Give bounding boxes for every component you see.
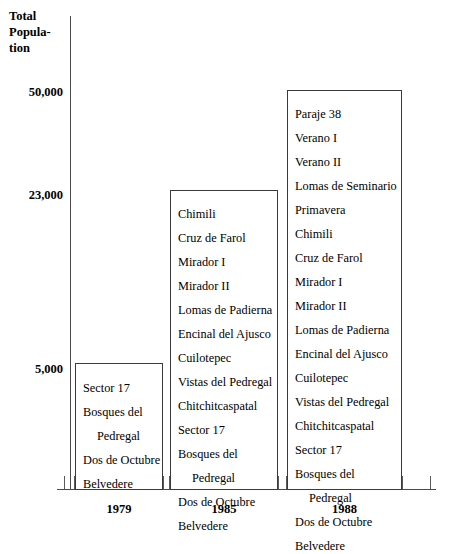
bar-1988-entry-list: Paraje 38Verano IVerano IILomas de Semin… (288, 102, 401, 554)
bar-1985: ChimiliCruz de FarolMirador IMirador IIL… (170, 190, 278, 490)
bar-1979-entry-list: Sector 17Bosques delPedregalDos de Octub… (76, 376, 162, 496)
bar-entry: Chitchitcaspatal (178, 394, 270, 418)
bar-1979: Sector 17Bosques delPedregalDos de Octub… (75, 363, 163, 490)
bar-entry: Bosques del (178, 442, 270, 466)
y-axis-line (70, 16, 71, 490)
bar-entry: Mirador I (178, 250, 270, 274)
bar-entry: Primavera (295, 198, 394, 222)
bar-entry: Pedregal (178, 466, 270, 490)
bar-entry: Encinal del Ajusco (295, 342, 394, 366)
bar-entry: Sector 17 (83, 376, 155, 400)
x-axis-tick-1985-end (278, 476, 279, 489)
bar-entry: Belvedere (295, 534, 394, 554)
x-axis-end-tick (430, 476, 431, 489)
bar-entry: Mirador I (295, 270, 394, 294)
bar-entry: Lomas de Seminario (295, 174, 394, 198)
y-axis-title-line-3: tion (9, 40, 69, 56)
y-tick-label-23000: 23,000 (0, 189, 63, 202)
bar-entry: Cruz de Farol (295, 246, 394, 270)
bar-1985-entry-list: ChimiliCruz de FarolMirador IMirador IIL… (171, 202, 277, 538)
bar-entry: Bosques del (83, 400, 155, 424)
bar-entry: Belvedere (83, 472, 155, 496)
bar-entry: Lomas de Padierna (178, 298, 270, 322)
y-axis-title: Total Popula- tion (9, 8, 69, 56)
x-axis-tick-1988-end (402, 476, 403, 489)
x-axis-label-1985: 1985 (170, 502, 278, 516)
bar-entry: Sector 17 (178, 418, 270, 442)
bar-entry: Bosques del (295, 462, 394, 486)
bar-entry: Verano I (295, 126, 394, 150)
x-axis-label-1979: 1979 (75, 502, 163, 516)
bar-entry: Cuilotepec (295, 366, 394, 390)
x-axis-label-1988: 1988 (287, 502, 402, 516)
bar-entry: Vistas del Pedregal (178, 370, 270, 394)
y-tick-label-5000: 5,000 (0, 363, 63, 376)
bar-entry: Pedregal (83, 424, 155, 448)
bar-entry: Chitchitcaspatal (295, 414, 394, 438)
y-axis-title-line-2: Popula- (9, 24, 69, 40)
bar-entry: Verano II (295, 150, 394, 174)
bar-entry: Vistas del Pedregal (295, 390, 394, 414)
bar-entry: Mirador II (178, 274, 270, 298)
y-axis-title-line-1: Total (9, 8, 69, 24)
bar-entry: Cruz de Farol (178, 226, 270, 250)
bar-1988: Paraje 38Verano IVerano IILomas de Semin… (287, 90, 402, 490)
bar-entry: Lomas de Padierna (295, 318, 394, 342)
bar-entry: Mirador II (295, 294, 394, 318)
bar-entry: Paraje 38 (295, 102, 394, 126)
bar-entry: Sector 17 (295, 438, 394, 462)
bar-entry: Cuilotepec (178, 346, 270, 370)
x-axis-tick-1979-end (163, 476, 164, 489)
bar-entry: Encinal del Ajusco (178, 322, 270, 346)
bar-entry: Chimili (178, 202, 270, 226)
y-axis-origin-tick (64, 476, 65, 489)
bar-entry: Dos de Octubre (83, 448, 155, 472)
bar-entry: Belvedere (178, 514, 270, 538)
y-tick-label-50000: 50,000 (0, 86, 63, 99)
bar-entry: Chimili (295, 222, 394, 246)
